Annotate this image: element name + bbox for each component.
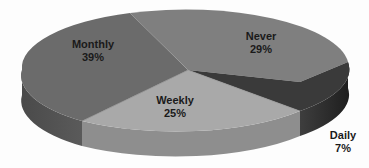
pie-chart: Monthly 39% Never 29% Weekly 25% Daily 7… (0, 0, 369, 168)
label-weekly: Weekly 25% (140, 94, 210, 120)
label-never: Never 29% (226, 30, 296, 56)
pie-3d-graphic (0, 0, 369, 168)
label-monthly: Monthly 39% (58, 38, 128, 64)
label-daily: Daily 7% (323, 129, 363, 155)
